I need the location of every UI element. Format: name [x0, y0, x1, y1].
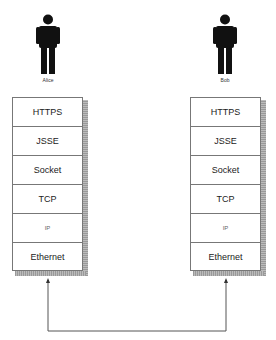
connection-line	[0, 0, 276, 340]
arrow-head-left-icon	[46, 278, 50, 283]
arrow-head-right-icon	[224, 278, 228, 283]
